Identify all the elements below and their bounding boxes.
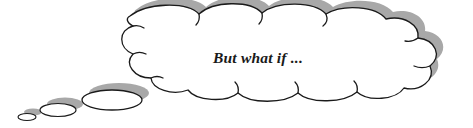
- illustration-canvas: But what if ...: [0, 0, 473, 128]
- thought-bubble-caption: But what if ...: [213, 49, 313, 67]
